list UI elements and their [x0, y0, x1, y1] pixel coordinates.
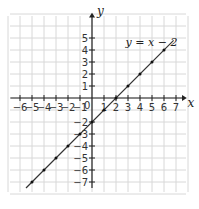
y-tick-label: 2	[82, 69, 88, 80]
data-point	[127, 85, 130, 88]
x-tick-label: 3	[125, 102, 131, 113]
data-point	[31, 181, 34, 184]
x-axis-label: x	[187, 96, 194, 110]
y-tick-label: 3	[82, 57, 88, 68]
data-point	[91, 121, 94, 124]
x-tick-label: 7	[173, 102, 179, 113]
x-tick-label: 2	[113, 102, 119, 113]
data-point	[55, 157, 58, 160]
data-series	[26, 40, 174, 188]
data-point	[103, 109, 106, 112]
data-point	[151, 61, 154, 64]
y-tick-label: 5	[82, 33, 88, 44]
data-point	[67, 145, 70, 148]
y-tick-label: 1	[82, 81, 88, 92]
y-tick-label: −4	[73, 141, 88, 152]
y-tick-label: −5	[73, 153, 88, 164]
origin-label: 0	[84, 100, 90, 111]
line-graph: −6−5−4−3−2−11234567−7−6−5−4−3−212345 x y…	[0, 0, 199, 209]
y-tick-label: 4	[82, 45, 88, 56]
y-tick-label: −7	[73, 177, 88, 188]
y-tick-label: −2	[73, 117, 88, 128]
data-point	[115, 97, 118, 100]
equation-label: y = x − 2	[125, 36, 178, 49]
data-point	[139, 73, 142, 76]
x-tick-label: 4	[137, 102, 143, 113]
data-point	[43, 169, 46, 172]
x-tick-label: 6	[161, 102, 167, 113]
y-axis-label: y	[96, 4, 104, 18]
x-tick-label: 5	[149, 102, 155, 113]
data-point	[79, 133, 82, 136]
y-tick-label: −6	[73, 165, 88, 176]
x-axis-arrow-icon	[182, 95, 187, 101]
